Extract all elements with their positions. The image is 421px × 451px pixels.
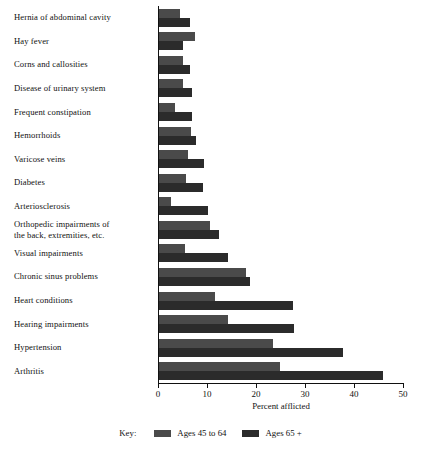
category-label: Orthopedic impairments ofthe back, extre… <box>14 219 154 240</box>
legend-swatch-icon-ages-65-plus <box>242 430 259 437</box>
bar-ages-65-plus <box>159 324 294 333</box>
bar-group <box>159 103 404 121</box>
x-tick <box>256 383 257 388</box>
bar-ages-45-to-64 <box>159 221 210 230</box>
legend-item-ages-65-plus: Ages 65 + <box>242 428 301 438</box>
bar-ages-45-to-64 <box>159 339 273 348</box>
bar-ages-45-to-64 <box>159 174 186 183</box>
bar-ages-45-to-64 <box>159 56 183 65</box>
bar-ages-65-plus <box>159 371 383 380</box>
bar-group <box>159 362 404 380</box>
bar-group <box>159 174 404 192</box>
bar-group <box>159 56 404 74</box>
bar-group <box>159 79 404 97</box>
category-label: Frequent constipation <box>14 107 154 118</box>
category-label: Corns and callosities <box>14 59 154 70</box>
x-tick <box>158 383 159 388</box>
category-label: Hypertension <box>14 342 154 353</box>
bar-group <box>159 339 404 357</box>
bar-group <box>159 221 404 239</box>
x-tick <box>354 383 355 388</box>
bar-group <box>159 150 404 168</box>
category-label: Arteriosclerosis <box>14 201 154 212</box>
bar-ages-65-plus <box>159 136 196 145</box>
bar-ages-65-plus <box>159 183 203 192</box>
legend-label-ages-45-to-64: Ages 45 to 64 <box>177 428 226 438</box>
bar-group <box>159 197 404 215</box>
x-tick-label: 50 <box>383 389 421 399</box>
bar-ages-65-plus <box>159 41 183 50</box>
bar-ages-65-plus <box>159 230 219 239</box>
x-tick-label: 40 <box>334 389 374 399</box>
bar-group <box>159 315 404 333</box>
category-label: Heart conditions <box>14 295 154 306</box>
legend-item-ages-45-to-64: Ages 45 to 64 <box>154 428 226 438</box>
bar-ages-45-to-64 <box>159 127 191 136</box>
bar-ages-65-plus <box>159 253 228 262</box>
plot-area <box>158 6 404 384</box>
bar-group <box>159 292 404 310</box>
x-axis-title: Percent afflicted <box>158 401 404 411</box>
category-label: Hay fever <box>14 36 154 47</box>
bar-group <box>159 244 404 262</box>
bar-ages-65-plus <box>159 277 250 286</box>
category-label: Hemorrhoids <box>14 130 154 141</box>
bar-ages-45-to-64 <box>159 292 215 301</box>
category-label: Hernia of abdominal cavity <box>14 12 154 23</box>
x-tick-label: 0 <box>138 389 178 399</box>
bar-ages-65-plus <box>159 112 192 121</box>
x-tick <box>305 383 306 388</box>
category-label-list: Hernia of abdominal cavityHay feverCorns… <box>0 6 152 383</box>
bar-ages-45-to-64 <box>159 79 183 88</box>
x-tick-label: 10 <box>187 389 227 399</box>
category-label: Arthritis <box>14 366 154 377</box>
bar-ages-45-to-64 <box>159 268 246 277</box>
x-tick-label: 20 <box>236 389 276 399</box>
bar-group <box>159 268 404 286</box>
bar-ages-45-to-64 <box>159 9 180 18</box>
bar-ages-65-plus <box>159 88 192 97</box>
legend-key-label: Key: <box>119 428 136 438</box>
bar-ages-45-to-64 <box>159 362 280 371</box>
x-tick <box>403 383 404 388</box>
category-label: Varicose veins <box>14 154 154 165</box>
category-label: Chronic sinus problems <box>14 271 154 282</box>
bar-ages-45-to-64 <box>159 150 188 159</box>
legend-label-ages-65-plus: Ages 65 + <box>265 428 301 438</box>
bar-ages-65-plus <box>159 206 208 215</box>
chart-legend: Key: Ages 45 to 64 Ages 65 + <box>0 425 421 441</box>
category-label: Diabetes <box>14 177 154 188</box>
bar-ages-65-plus <box>159 65 190 74</box>
x-tick-label: 30 <box>285 389 325 399</box>
category-label: Visual impairments <box>14 248 154 259</box>
bar-group <box>159 9 404 27</box>
bar-chart: Hernia of abdominal cavityHay feverCorns… <box>0 0 421 451</box>
bar-ages-45-to-64 <box>159 315 228 324</box>
x-tick <box>207 383 208 388</box>
bar-group <box>159 32 404 50</box>
category-label: Disease of urinary system <box>14 83 154 94</box>
bar-ages-65-plus <box>159 348 343 357</box>
bar-ages-65-plus <box>159 159 204 168</box>
legend-swatch-icon-ages-45-to-64 <box>154 430 171 437</box>
bar-rows <box>159 6 404 383</box>
bar-ages-45-to-64 <box>159 32 195 41</box>
bar-ages-45-to-64 <box>159 244 185 253</box>
category-label: Hearing impairments <box>14 319 154 330</box>
bar-ages-45-to-64 <box>159 197 171 206</box>
bar-ages-45-to-64 <box>159 103 175 112</box>
bar-ages-65-plus <box>159 18 190 27</box>
bar-ages-65-plus <box>159 301 293 310</box>
bar-group <box>159 127 404 145</box>
